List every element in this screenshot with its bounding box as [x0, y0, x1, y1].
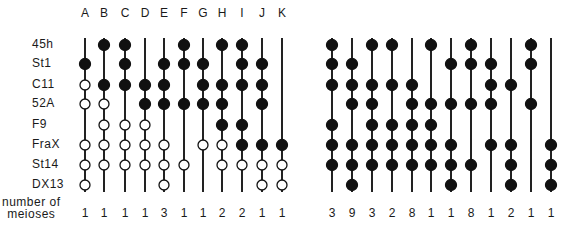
open-allele-icon	[80, 160, 90, 170]
filled-allele-icon	[327, 120, 338, 131]
open-allele-icon	[99, 120, 109, 130]
filled-allele-icon	[80, 59, 91, 70]
filled-allele-icon	[367, 80, 378, 91]
open-allele-icon	[80, 80, 90, 90]
filled-allele-icon	[466, 160, 477, 171]
open-allele-icon	[140, 120, 150, 130]
filled-allele-icon	[546, 180, 557, 191]
filled-allele-icon	[426, 120, 437, 131]
open-allele-icon	[217, 140, 227, 150]
filled-allele-icon	[217, 120, 228, 131]
open-allele-icon	[159, 140, 169, 150]
filled-allele-icon	[426, 99, 437, 110]
filled-allele-icon	[237, 120, 248, 131]
open-allele-icon	[120, 120, 130, 130]
filled-allele-icon	[347, 160, 358, 171]
filled-allele-icon	[486, 59, 497, 70]
open-allele-icon	[217, 160, 227, 170]
filled-allele-icon	[198, 59, 209, 70]
filled-allele-icon	[179, 40, 190, 51]
filled-allele-icon	[327, 140, 338, 151]
filled-allele-icon	[367, 140, 378, 151]
open-allele-icon	[237, 160, 247, 170]
filled-allele-icon	[257, 99, 268, 110]
filled-allele-icon	[506, 140, 517, 151]
filled-allele-icon	[198, 99, 209, 110]
filled-allele-icon	[367, 40, 378, 51]
filled-allele-icon	[387, 140, 398, 151]
filled-allele-icon	[426, 40, 437, 51]
filled-allele-icon	[120, 80, 131, 91]
filled-allele-icon	[237, 40, 248, 51]
filled-allele-icon	[159, 99, 170, 110]
filled-allele-icon	[347, 59, 358, 70]
filled-allele-icon	[407, 120, 418, 131]
chromosome-lines-layer	[0, 0, 570, 230]
filled-allele-icon	[140, 99, 151, 110]
open-allele-icon	[99, 160, 109, 170]
open-allele-icon	[140, 140, 150, 150]
filled-allele-icon	[407, 99, 418, 110]
filled-allele-icon	[99, 40, 110, 51]
filled-allele-icon	[257, 59, 268, 70]
open-allele-icon	[140, 160, 150, 170]
filled-allele-icon	[407, 140, 418, 151]
filled-allele-icon	[506, 180, 517, 191]
filled-allele-icon	[367, 99, 378, 110]
filled-allele-icon	[217, 40, 228, 51]
filled-allele-icon	[327, 59, 338, 70]
filled-allele-icon	[217, 80, 228, 91]
filled-allele-icon	[159, 59, 170, 70]
open-allele-icon	[277, 160, 287, 170]
filled-allele-icon	[347, 99, 358, 110]
filled-allele-icon	[446, 140, 457, 151]
filled-allele-icon	[506, 160, 517, 171]
filled-allele-icon	[140, 80, 151, 91]
filled-allele-icon	[277, 140, 288, 151]
filled-allele-icon	[466, 40, 477, 51]
filled-allele-icon	[367, 120, 378, 131]
filled-allele-icon	[446, 160, 457, 171]
filled-allele-icon	[446, 99, 457, 110]
open-allele-icon	[80, 99, 90, 109]
filled-allele-icon	[387, 120, 398, 131]
filled-allele-icon	[159, 80, 170, 91]
filled-allele-icon	[446, 59, 457, 70]
filled-allele-icon	[407, 80, 418, 91]
open-allele-icon	[120, 140, 130, 150]
filled-allele-icon	[327, 40, 338, 51]
filled-allele-icon	[237, 80, 248, 91]
filled-allele-icon	[257, 140, 268, 151]
filled-allele-icon	[506, 80, 517, 91]
filled-allele-icon	[347, 80, 358, 91]
filled-allele-icon	[486, 80, 497, 91]
filled-allele-icon	[387, 160, 398, 171]
filled-allele-icon	[179, 59, 190, 70]
filled-allele-icon	[446, 180, 457, 191]
filled-allele-icon	[120, 59, 131, 70]
open-allele-icon	[257, 180, 267, 190]
filled-allele-icon	[347, 180, 358, 191]
filled-allele-icon	[257, 80, 268, 91]
filled-allele-icon	[407, 160, 418, 171]
filled-allele-icon	[486, 99, 497, 110]
filled-allele-icon	[546, 160, 557, 171]
open-allele-icon	[277, 180, 287, 190]
filled-allele-icon	[367, 160, 378, 171]
filled-allele-icon	[426, 160, 437, 171]
open-allele-icon	[99, 140, 109, 150]
filled-allele-icon	[237, 59, 248, 70]
open-allele-icon	[198, 140, 208, 150]
filled-allele-icon	[526, 59, 537, 70]
filled-allele-icon	[387, 80, 398, 91]
filled-allele-icon	[387, 40, 398, 51]
filled-allele-icon	[120, 40, 131, 51]
filled-allele-icon	[179, 99, 190, 110]
filled-allele-icon	[327, 80, 338, 91]
open-allele-icon	[159, 180, 169, 190]
filled-allele-icon	[526, 99, 537, 110]
filled-allele-icon	[466, 99, 477, 110]
open-allele-icon	[120, 160, 130, 170]
filled-allele-icon	[526, 40, 537, 51]
filled-allele-icon	[327, 160, 338, 171]
